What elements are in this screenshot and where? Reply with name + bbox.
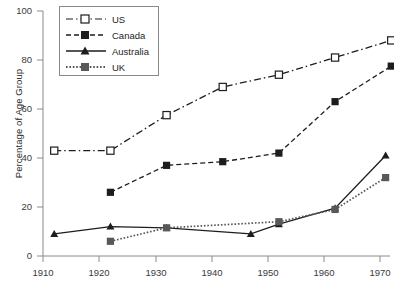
chart-legend: US Canada Australia bbox=[59, 6, 159, 76]
legend-key-us-icon bbox=[64, 12, 108, 26]
y-tick-40: 40 bbox=[6, 152, 32, 163]
legend-key-uk-icon bbox=[64, 60, 108, 74]
data-point bbox=[107, 238, 114, 245]
legend-item-uk: UK bbox=[64, 59, 158, 75]
x-tick-1910: 1910 bbox=[23, 267, 63, 278]
series-canada bbox=[107, 63, 394, 196]
x-tick-1930: 1930 bbox=[136, 267, 176, 278]
legend-label-uk: UK bbox=[112, 62, 125, 73]
data-point bbox=[275, 71, 282, 78]
data-point bbox=[107, 189, 114, 196]
y-ticks bbox=[37, 11, 43, 256]
x-tick-1940: 1940 bbox=[192, 267, 232, 278]
legend-item-us: US bbox=[64, 11, 158, 27]
y-tick-100: 100 bbox=[6, 5, 32, 16]
legend-key-australia-icon bbox=[64, 44, 108, 58]
data-point bbox=[331, 54, 338, 61]
data-point bbox=[388, 37, 394, 44]
x-tick-1950: 1950 bbox=[248, 267, 288, 278]
data-point bbox=[331, 206, 338, 213]
data-point bbox=[382, 152, 390, 159]
x-tick-1970: 1970 bbox=[360, 267, 394, 278]
y-tick-60: 60 bbox=[6, 103, 32, 114]
legend-key-canada-icon bbox=[64, 28, 108, 42]
legend-label-australia: Australia bbox=[112, 46, 149, 57]
data-point bbox=[275, 218, 282, 225]
x-tick-1920: 1920 bbox=[79, 267, 119, 278]
x-ticks bbox=[43, 256, 380, 262]
y-axis-label: Percentage of Age Group bbox=[13, 44, 24, 204]
chart-figure: Percentage of Age Group 100 80 60 40 20 … bbox=[0, 0, 394, 289]
legend-label-canada: Canada bbox=[112, 30, 145, 41]
data-point bbox=[331, 98, 338, 105]
data-point bbox=[219, 158, 226, 165]
legend-label-us: US bbox=[112, 14, 125, 25]
data-point bbox=[51, 147, 58, 154]
data-point bbox=[388, 63, 394, 70]
data-point bbox=[219, 83, 226, 90]
x-tick-1960: 1960 bbox=[304, 267, 344, 278]
legend-item-australia: Australia bbox=[64, 43, 158, 59]
legend-item-canada: Canada bbox=[64, 27, 158, 43]
data-point bbox=[275, 150, 282, 157]
y-tick-20: 20 bbox=[6, 201, 32, 212]
y-tick-80: 80 bbox=[6, 54, 32, 65]
data-point bbox=[163, 112, 170, 119]
y-tick-0: 0 bbox=[6, 250, 32, 261]
data-point bbox=[163, 224, 170, 231]
data-point bbox=[163, 162, 170, 169]
data-point bbox=[107, 147, 114, 154]
data-point bbox=[382, 174, 389, 181]
